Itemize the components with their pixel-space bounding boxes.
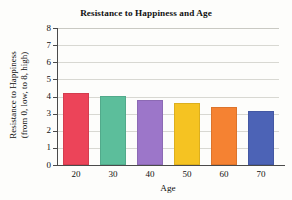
y-axis-title: Resistance to Happiness (from 0, low, to…	[2, 24, 36, 166]
y-tick-label: 0	[38, 161, 51, 170]
y-axis-title-line-1: Resistance to Happiness	[8, 51, 19, 138]
bars-layer	[57, 28, 279, 165]
y-tick-label: 1	[38, 143, 51, 152]
x-tick-label: 60	[211, 169, 237, 179]
chart-title: Resistance to Happiness and Age	[0, 8, 292, 18]
bar	[248, 111, 274, 165]
y-tick-label: 7	[38, 41, 51, 50]
x-tick-label: 40	[137, 169, 163, 179]
y-tick-label: 4	[38, 92, 51, 101]
x-tick-label: 70	[248, 169, 274, 179]
x-tick-label: 50	[174, 169, 200, 179]
x-axis-line	[57, 165, 285, 166]
bar	[137, 100, 163, 165]
bar	[211, 107, 237, 165]
bar	[100, 96, 126, 165]
bar	[174, 103, 200, 165]
y-tick-label: 6	[38, 58, 51, 67]
bar-chart-figure: Resistance to Happiness and Age Resistan…	[0, 0, 292, 200]
bar	[63, 93, 89, 165]
y-tick-label: 3	[38, 109, 51, 118]
x-tick-label: 30	[100, 169, 126, 179]
y-axis-title-line-2: (from 0, low, to 8, high)	[19, 51, 30, 138]
y-tick-label: 5	[38, 75, 51, 84]
y-tick-label: 8	[38, 24, 51, 33]
x-tick-label: 20	[63, 169, 89, 179]
x-axis-title: Age	[57, 183, 279, 193]
y-tick-label: 2	[38, 126, 51, 135]
